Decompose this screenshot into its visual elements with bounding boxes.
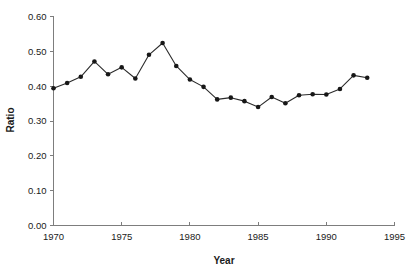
y-tick-label: 0.50: [28, 46, 47, 57]
data-point-marker: [310, 92, 315, 97]
y-tick-label: 0.00: [28, 220, 47, 231]
data-point-marker: [119, 65, 124, 70]
data-point-marker: [365, 76, 370, 81]
chart-tick-marks: [50, 17, 395, 226]
data-point-marker: [65, 81, 70, 86]
data-point-marker: [215, 97, 220, 102]
data-point-marker: [242, 99, 247, 104]
data-point-marker: [78, 74, 83, 79]
chart-axes: [54, 17, 395, 226]
series-line-ratio: [54, 43, 368, 107]
y-tick-label: 0.20: [28, 150, 47, 161]
chart-figure: 197019751980198519901995 0.000.100.200.3…: [0, 0, 420, 271]
line-chart-canvas: 197019751980198519901995 0.000.100.200.3…: [0, 0, 420, 271]
data-point-marker: [283, 101, 288, 106]
data-point-marker: [201, 85, 206, 90]
y-tick-label: 0.10: [28, 185, 47, 196]
data-point-marker: [324, 92, 329, 97]
data-point-marker: [133, 76, 138, 81]
x-axis-tick-labels: 197019751980198519901995: [43, 231, 405, 242]
x-tick-label: 1985: [248, 231, 269, 242]
data-point-marker: [269, 95, 274, 100]
data-point-marker: [338, 87, 343, 92]
data-point-marker: [229, 95, 234, 100]
data-series-ratio: [51, 41, 369, 110]
data-point-marker: [188, 77, 193, 82]
x-tick-label: 1990: [316, 231, 337, 242]
x-tick-label: 1970: [43, 231, 64, 242]
x-axis-title: Year: [213, 255, 234, 266]
data-point-marker: [256, 105, 261, 110]
axis-spines: [54, 17, 395, 226]
y-axis-tick-labels: 0.000.100.200.300.400.500.60: [28, 11, 47, 231]
y-tick-label: 0.30: [28, 115, 47, 126]
y-axis-title: Ratio: [5, 108, 16, 133]
data-point-marker: [106, 72, 111, 77]
x-tick-label: 1980: [179, 231, 200, 242]
data-point-marker: [174, 64, 179, 69]
x-tick-label: 1975: [111, 231, 132, 242]
data-point-marker: [351, 73, 356, 78]
y-tick-label: 0.60: [28, 11, 47, 22]
data-point-marker: [51, 86, 56, 91]
x-tick-label: 1995: [384, 231, 405, 242]
data-point-marker: [297, 93, 302, 98]
data-point-marker: [160, 41, 165, 46]
y-tick-label: 0.40: [28, 81, 47, 92]
data-point-marker: [147, 53, 152, 58]
data-point-marker: [92, 59, 97, 64]
